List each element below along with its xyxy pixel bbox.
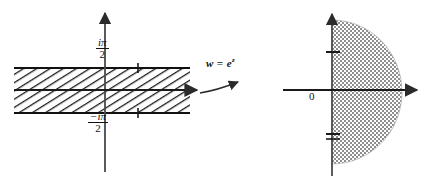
stippled-half-disk-region: [332, 20, 402, 164]
label-lower-boundary-value: −iπ 2: [88, 111, 108, 134]
label-lower-numerator: −iπ: [88, 111, 108, 122]
label-upper-numerator: iπ: [96, 37, 109, 48]
label-upper-denominator: 2: [96, 48, 109, 60]
complex-map-figure: [0, 0, 426, 180]
map-exponent-z: z: [232, 56, 235, 64]
label-lower-denominator: 2: [88, 122, 108, 134]
mapping-arrow: [200, 82, 238, 93]
right-panel-w-plane: [283, 14, 417, 176]
mapping-equation-label: w=ez: [206, 57, 235, 69]
map-equals-sign: =: [214, 57, 227, 69]
label-origin-zero: 0: [309, 91, 315, 102]
label-upper-boundary-value: iπ 2: [96, 37, 109, 60]
map-variable-w: w: [206, 57, 214, 69]
